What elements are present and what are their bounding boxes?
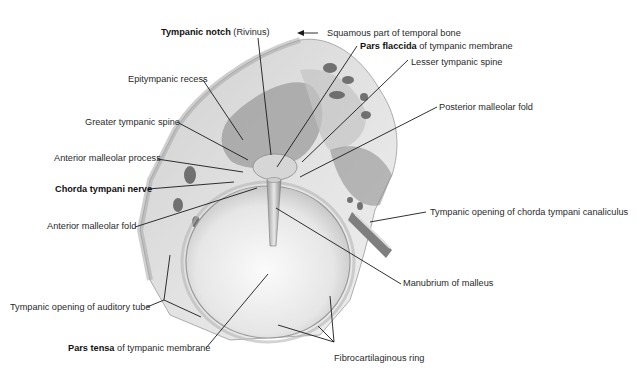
- tympanic-membrane-figure: Tympanic notch (Rivinus) Squamous part o…: [0, 0, 641, 380]
- label-anterior-malleolar-process: Anterior malleolar process: [54, 153, 161, 164]
- label-tympanic-opening-auditory-tube: Tympanic opening of auditory tube: [10, 302, 150, 313]
- label-manubrium-of-malleus: Manubrium of malleus: [403, 278, 493, 289]
- pars-flaccida: [253, 154, 297, 180]
- label-tympanic-opening-chorda: Tympanic opening of chorda tympani canal…: [430, 207, 628, 218]
- label-epitympanic-recess: Epitympanic recess: [128, 74, 208, 85]
- label-chorda-tympani-nerve: Chorda tympani nerve: [55, 184, 152, 195]
- label-fibrocartilaginous-ring: Fibrocartilaginous ring: [334, 353, 424, 364]
- label-pars-flaccida: Pars flaccida of tympanic membrane: [360, 41, 513, 52]
- label-squamous-part: Squamous part of temporal bone: [327, 28, 461, 39]
- label-tympanic-notch: Tympanic notch (Rivinus): [161, 27, 270, 38]
- label-lesser-tympanic-spine: Lesser tympanic spine: [411, 57, 502, 68]
- label-greater-tympanic-spine: Greater tympanic spine: [85, 117, 180, 128]
- arrow-icon: [297, 30, 304, 36]
- label-posterior-malleolar-fold: Posterior malleolar fold: [439, 102, 533, 113]
- label-anterior-malleolar-fold: Anterior malleolar fold: [47, 221, 136, 232]
- label-pars-tensa: Pars tensa of tympanic membrane: [68, 343, 210, 354]
